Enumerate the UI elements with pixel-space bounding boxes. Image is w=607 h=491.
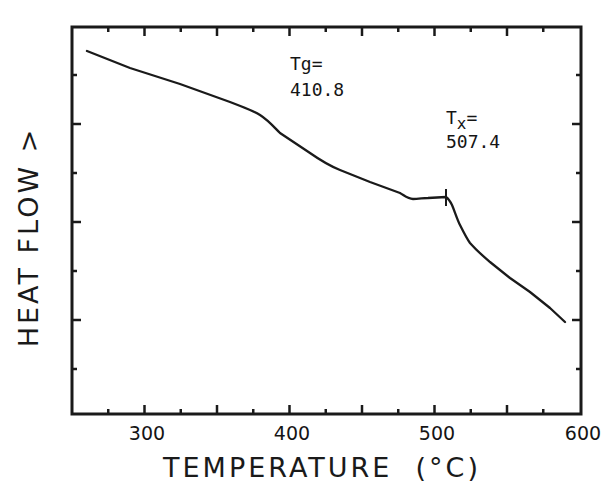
x-axis-tick-labels: 300 400 500 600 <box>129 422 601 444</box>
tg-label: Tg= <box>290 53 323 74</box>
x-axis-title: TEMPERATURE (°C) <box>162 452 481 483</box>
x-tick-label-300: 300 <box>129 422 165 444</box>
x-tick-label-600: 600 <box>565 422 601 444</box>
tx-label: Tx= <box>446 107 477 133</box>
tg-value: 410.8 <box>290 79 344 100</box>
y-axis-title: HEAT FLOW > <box>13 127 44 348</box>
x-tick-label-500: 500 <box>419 422 455 444</box>
dsc-chart: 300 400 500 600 Tg= 410.8 Tx= 507.4 TEMP… <box>0 0 607 491</box>
tg-annotation: Tg= 410.8 <box>290 53 344 100</box>
tx-annotation: Tx= 507.4 <box>446 107 500 152</box>
x-tick-label-400: 400 <box>274 422 310 444</box>
tx-value: 507.4 <box>446 131 500 152</box>
